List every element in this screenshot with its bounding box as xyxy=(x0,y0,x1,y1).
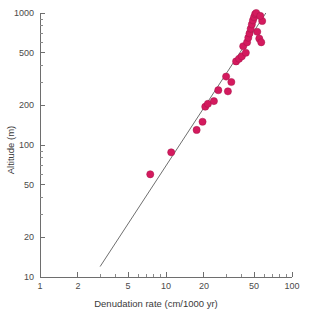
x-tick-label: 50 xyxy=(249,281,259,291)
data-point xyxy=(199,118,206,125)
y-tick-label: 500 xyxy=(19,48,34,58)
data-point xyxy=(193,126,200,133)
x-tick-label: 20 xyxy=(199,281,209,291)
chart-figure: 1251020501001020501002005001000 Denudati… xyxy=(0,0,312,317)
y-tick-label: 50 xyxy=(24,180,34,190)
tick-marks xyxy=(40,13,292,277)
y-tick-label: 20 xyxy=(24,232,34,242)
data-point xyxy=(224,88,231,95)
data-points xyxy=(147,9,266,177)
axes xyxy=(40,13,292,277)
data-point xyxy=(147,171,154,178)
data-point xyxy=(242,49,249,56)
data-point xyxy=(257,12,264,19)
regression-line xyxy=(100,13,266,267)
trend-line xyxy=(100,13,266,267)
x-tick-label: 5 xyxy=(126,281,131,291)
y-axis-label: Altitude (m) xyxy=(5,126,16,175)
y-tick-label: 100 xyxy=(19,140,34,150)
x-tick-label: 2 xyxy=(75,281,80,291)
tick-labels: 1251020501001020501002005001000 xyxy=(14,8,300,291)
data-point xyxy=(215,87,222,94)
scatter-plot: 1251020501001020501002005001000 Denudati… xyxy=(0,0,312,317)
y-tick-label: 10 xyxy=(24,272,34,282)
x-tick-label: 1 xyxy=(37,281,42,291)
x-tick-label: 10 xyxy=(161,281,171,291)
data-point xyxy=(254,28,261,35)
data-point xyxy=(168,149,175,156)
data-point xyxy=(210,98,217,105)
y-tick-label: 1000 xyxy=(14,8,34,18)
data-point xyxy=(228,78,235,85)
x-tick-label: 100 xyxy=(284,281,299,291)
x-axis-label: Denudation rate (cm/1000 yr) xyxy=(94,298,218,309)
y-tick-label: 200 xyxy=(19,100,34,110)
data-point xyxy=(223,73,230,80)
data-point xyxy=(258,39,265,46)
